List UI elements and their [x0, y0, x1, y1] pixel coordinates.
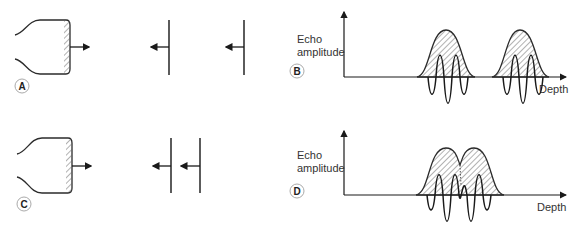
svg-text:D: D: [293, 186, 300, 197]
transducer-icon: [15, 20, 70, 74]
panel-label-d: D: [290, 184, 304, 198]
echo-envelope-2: [492, 30, 549, 77]
y-axis-label-2: amplitude: [297, 162, 345, 174]
svg-text:A: A: [18, 81, 25, 92]
y-axis-label-1: Echo: [297, 33, 322, 45]
panel-label-c: C: [17, 197, 31, 211]
y-axis-label-2: amplitude: [297, 46, 345, 58]
svg-text:B: B: [293, 66, 300, 77]
x-axis-label: Depth: [537, 201, 566, 213]
x-axis-label: Depth: [539, 83, 568, 95]
panel-c: C: [17, 138, 200, 211]
panel-d: Echo amplitude Depth D: [290, 131, 566, 221]
panel-a: A: [15, 20, 244, 93]
panel-label-b: B: [290, 64, 304, 78]
svg-text:C: C: [20, 199, 27, 210]
axial-resolution-diagram: A Echo amplitude Depth B C: [0, 0, 582, 232]
transducer-icon: [17, 138, 72, 193]
panel-label-a: A: [15, 79, 29, 93]
panel-b: Echo amplitude Depth B: [290, 12, 568, 103]
y-axis-label-1: Echo: [297, 149, 322, 161]
echo-envelope-1: [417, 30, 475, 77]
